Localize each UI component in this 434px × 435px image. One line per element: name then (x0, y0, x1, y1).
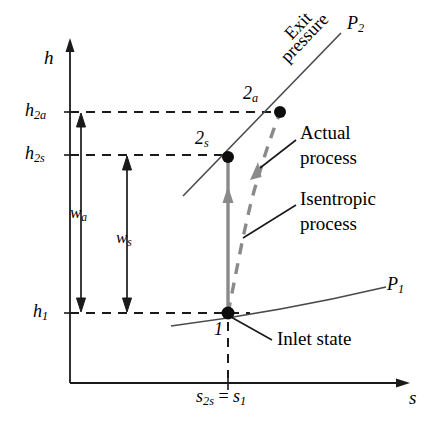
actual-process-arrowhead (250, 162, 262, 180)
y-tick-label-h2s-sub: 2s (34, 151, 45, 165)
work-label-actual: wa (70, 204, 87, 224)
state-point-1-marker (222, 307, 235, 320)
state-label-2a-main: 2 (243, 83, 252, 103)
callout-isentropic-process-line1: Isentropic (300, 189, 376, 209)
axis-group (66, 38, 411, 388)
work-label-isentropic-sub: s (127, 236, 132, 249)
callout-actual-process-line2: process (300, 148, 357, 168)
y-tick-label-h2a-sub: 2a (34, 108, 46, 122)
hs-diagram: h s h2a h2s h1 s2s = s1 2a 2s 1 P2 P1 Ex… (0, 0, 434, 435)
enthalpy-axis-label: h (44, 48, 54, 68)
work-label-actual-main: w (70, 203, 81, 222)
pressure-label-p1-sub: 1 (398, 282, 404, 296)
x-tick-label-s2s-main: s (196, 386, 203, 406)
isentropic-process-arrowhead (223, 186, 234, 203)
work-label-isentropic-main: w (116, 228, 127, 247)
x-tick-label-s2s-s1: s2s = s1 (196, 387, 246, 408)
state-label-2s-sub: s (204, 136, 209, 150)
work-arrow-isentropic-head-bottom (123, 298, 132, 312)
callout-isentropic-process-line2: process (300, 214, 357, 234)
pressure-label-p2: P2 (347, 14, 364, 35)
state-point-2a-marker (274, 106, 286, 118)
entropy-axis-arrowhead (396, 379, 410, 388)
callout-inlet-state: Inlet state (277, 329, 351, 349)
y-tick-label-h2s-main: h (25, 143, 34, 163)
inlet-pressure-line-p1 (171, 287, 386, 326)
pressure-label-p2-sub: 2 (358, 21, 364, 35)
state-label-2a-sub: a (252, 91, 258, 105)
state-label-1-main: 1 (214, 319, 223, 339)
actual-process-curve (228, 113, 280, 313)
state-label-2s-main: 2 (195, 128, 204, 148)
enthalpy-axis-arrowhead (66, 38, 75, 52)
y-tick-label-h2a-main: h (25, 100, 34, 120)
leader-inlet-state (231, 317, 272, 340)
y-tick-label-h2a: h2a (25, 101, 46, 122)
y-tick-label-h1: h1 (33, 302, 48, 323)
exit-pressure-line-p2 (183, 33, 341, 196)
x-tick-label-s1-sub: 1 (240, 394, 246, 408)
work-arrow-actual-head-top (77, 113, 86, 127)
diagram-canvas (0, 0, 434, 435)
x-tick-label-equals: = (214, 386, 233, 406)
pressure-line-group (171, 33, 386, 326)
state-point-2s-marker (222, 151, 234, 163)
pressure-label-p1: P1 (387, 275, 404, 296)
actual-process-path (228, 113, 280, 313)
x-tick-label-s2s-sub: 2s (203, 394, 214, 408)
y-tick-label-h1-main: h (33, 301, 42, 321)
entropy-axis-label: s (409, 388, 416, 408)
state-point-markers (222, 106, 287, 320)
work-arrow-actual-head-bottom (77, 298, 86, 312)
work-label-isentropic: ws (116, 229, 132, 249)
state-label-2s: 2s (195, 129, 209, 150)
pressure-label-p2-main: P (347, 13, 358, 33)
work-label-actual-sub: a (81, 211, 87, 224)
callout-actual-process-line1: Actual (300, 123, 351, 143)
callout-leaders (231, 140, 296, 340)
tick-marks (64, 112, 228, 390)
pressure-label-p1-main: P (387, 274, 398, 294)
state-label-1: 1 (214, 320, 223, 339)
work-arrow-isentropic-head-top (123, 156, 132, 170)
construction-lines (70, 112, 279, 378)
y-tick-label-h2s: h2s (25, 144, 45, 165)
y-tick-label-h1-sub: 1 (42, 309, 48, 323)
state-label-2a: 2a (243, 84, 258, 105)
